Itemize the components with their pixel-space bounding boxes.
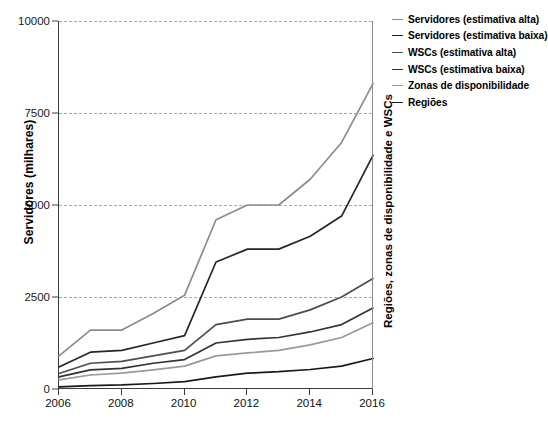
figure-caption — [0, 412, 548, 421]
x-tick-label: 2006 — [45, 397, 71, 409]
x-tick-mark — [184, 389, 185, 395]
right-axis-spine — [372, 21, 373, 390]
chart-figure: 025005000750010000 Servidores (milhares)… — [0, 0, 548, 421]
legend-label: Regiões — [408, 97, 447, 108]
legend-item-4[interactable]: Zonas de disponibilidade — [392, 77, 548, 94]
legend-item-1[interactable]: Servidores (estimativa baixa) — [392, 28, 548, 45]
series-line-1 — [59, 155, 373, 367]
x-tick-mark — [246, 389, 247, 395]
legend-swatch-icon — [392, 102, 403, 103]
series-line-2 — [59, 279, 373, 374]
legend-item-0[interactable]: Servidores (estimativa alta) — [392, 11, 548, 28]
legend-item-3[interactable]: WSCs (estimativa baixa) — [392, 61, 548, 78]
legend-swatch-icon — [392, 35, 403, 36]
series-lines — [59, 21, 373, 389]
plot-area — [58, 21, 372, 389]
x-tick-label: 2012 — [234, 397, 260, 409]
legend-item-2[interactable]: WSCs (estimativa alta) — [392, 44, 548, 61]
x-tick-label: 2016 — [359, 397, 385, 409]
legend-swatch-icon — [392, 69, 403, 70]
legend-swatch-icon — [392, 52, 403, 53]
y-tick-label: 10000 — [18, 15, 50, 27]
y-axis-title: Servidores (milhares) — [22, 57, 36, 307]
x-tick-mark — [309, 389, 310, 395]
legend-label: Servidores (estimativa baixa) — [408, 30, 548, 41]
legend-label: Zonas de disponibilidade — [408, 80, 529, 91]
legend-swatch-icon — [392, 85, 403, 86]
x-tick-label: 2008 — [108, 397, 134, 409]
legend-swatch-icon — [392, 19, 403, 20]
x-tick-label: 2014 — [296, 397, 322, 409]
x-tick-mark — [58, 389, 59, 395]
chart-legend: Servidores (estimativa alta)Servidores (… — [392, 11, 548, 111]
legend-item-5[interactable]: Regiões — [392, 94, 548, 111]
right-axis-title: Regiões, zonas de disponibilidade e WSCs — [382, 81, 394, 341]
legend-label: WSCs (estimativa alta) — [408, 47, 516, 58]
series-line-3 — [59, 308, 373, 377]
series-line-0 — [59, 84, 373, 356]
legend-label: Servidores (estimativa alta) — [408, 14, 539, 25]
x-tick-label: 2010 — [171, 397, 197, 409]
legend-label: WSCs (estimativa baixa) — [408, 64, 525, 75]
x-tick-mark — [121, 389, 122, 395]
x-tick-mark — [372, 389, 373, 395]
